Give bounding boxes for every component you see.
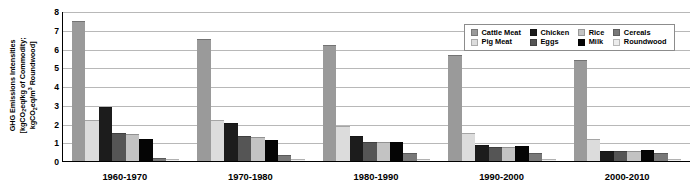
- y-axis-tick-label: 0: [54, 158, 59, 167]
- bar[interactable]: [515, 146, 528, 161]
- y-axis-title-line1: GHG Emissions Intensities: [8, 39, 17, 131]
- legend-item[interactable]: Cattle Meat: [471, 29, 521, 36]
- bar[interactable]: [166, 159, 179, 161]
- legend-swatch-icon: [471, 39, 478, 46]
- y-axis-title: GHG Emissions Intensities [kgCO2eq/kg of…: [0, 0, 46, 170]
- bar[interactable]: [574, 60, 587, 161]
- bar[interactable]: [390, 142, 403, 161]
- y-axis-title-text: GHG Emissions Intensities [kgCO2eq/kg of…: [8, 37, 39, 133]
- legend-label: Roundwood: [624, 38, 667, 45]
- bar[interactable]: [587, 139, 600, 162]
- legend-swatch-icon: [530, 39, 537, 46]
- x-axis-labels: 1960-19701970-19801980-19901990-20002000…: [62, 166, 690, 188]
- bar[interactable]: [475, 145, 488, 161]
- bar-group: [188, 12, 313, 161]
- bar[interactable]: [336, 126, 349, 161]
- bar[interactable]: [323, 45, 336, 161]
- y-axis-tick-label: 6: [54, 45, 59, 54]
- x-axis-category-label: 1970-1980: [188, 166, 314, 188]
- legend-item[interactable]: Cereals: [613, 29, 666, 36]
- legend-swatch-icon: [613, 39, 620, 46]
- bar[interactable]: [627, 151, 640, 161]
- bar[interactable]: [72, 21, 85, 161]
- y-axis-tick-label: 3: [54, 101, 59, 110]
- legend-swatch-icon: [613, 29, 620, 36]
- bar[interactable]: [417, 159, 430, 161]
- y-axis-tick-label: 5: [54, 64, 59, 73]
- ghg-emissions-bar-chart: GHG Emissions Intensities [kgCO2eq/kg of…: [0, 0, 696, 194]
- bar-group: [314, 12, 439, 161]
- y-axis-tick-label: 4: [54, 83, 59, 92]
- bar[interactable]: [153, 158, 166, 161]
- legend-item[interactable]: Roundwood: [613, 38, 666, 45]
- y-axis-tick-label: 7: [54, 26, 59, 35]
- bar[interactable]: [377, 142, 390, 161]
- x-axis-category-label: 1980-1990: [313, 166, 439, 188]
- legend-label: Chicken: [540, 29, 569, 36]
- bar[interactable]: [265, 140, 278, 161]
- bar[interactable]: [403, 153, 416, 161]
- legend-label: Milk: [589, 38, 603, 45]
- legend-item[interactable]: Pig Meat: [471, 38, 521, 45]
- bar[interactable]: [99, 107, 112, 161]
- legend-swatch-icon: [578, 39, 585, 46]
- legend-label: Cattle Meat: [482, 29, 521, 36]
- bar[interactable]: [502, 147, 515, 161]
- bar[interactable]: [251, 137, 264, 161]
- legend-swatch-icon: [578, 29, 585, 36]
- legend-label: Pig Meat: [482, 38, 512, 45]
- bar[interactable]: [278, 155, 291, 161]
- bar[interactable]: [350, 136, 363, 161]
- x-axis-category-label: 1990-2000: [439, 166, 565, 188]
- bar[interactable]: [211, 120, 224, 161]
- bar[interactable]: [238, 136, 251, 161]
- bar[interactable]: [126, 134, 139, 161]
- bar[interactable]: [654, 153, 667, 161]
- x-axis-category-label: 2000-2010: [564, 166, 690, 188]
- legend-label: Eggs: [540, 38, 558, 45]
- bar[interactable]: [462, 133, 475, 161]
- bar[interactable]: [641, 150, 654, 161]
- bar[interactable]: [489, 147, 502, 161]
- bar[interactable]: [197, 39, 210, 161]
- y-axis-ticks: 876543210: [44, 12, 62, 162]
- y-axis-tick-label: 2: [54, 120, 59, 129]
- bar[interactable]: [139, 139, 152, 161]
- legend-label: Cereals: [624, 29, 651, 36]
- legend-label: Rice: [589, 29, 605, 36]
- bar[interactable]: [224, 123, 237, 161]
- bar-group: [63, 12, 188, 161]
- bar[interactable]: [668, 159, 681, 161]
- bar[interactable]: [529, 153, 542, 161]
- legend-item[interactable]: Milk: [578, 38, 604, 45]
- bar[interactable]: [85, 120, 98, 161]
- legend-swatch-icon: [471, 29, 478, 36]
- y-axis-title-line3: kgCO2eq/m3 Roundwood]: [28, 37, 39, 133]
- bar[interactable]: [600, 151, 613, 161]
- bar[interactable]: [614, 151, 627, 161]
- x-axis-category-label: 1960-1970: [62, 166, 188, 188]
- y-axis-title-line2: [kgCO2eq/kg of Commodity;: [17, 37, 28, 133]
- y-axis-tick-label: 1: [54, 139, 59, 148]
- legend-item[interactable]: Rice: [578, 29, 604, 36]
- legend: Cattle MeatPig MeatChickenEggsRiceMilkCe…: [464, 24, 675, 51]
- legend-item[interactable]: Chicken: [530, 29, 569, 36]
- legend-swatch-icon: [530, 29, 537, 36]
- bar[interactable]: [363, 142, 376, 161]
- bar[interactable]: [291, 159, 304, 161]
- legend-item[interactable]: Eggs: [530, 38, 569, 45]
- bar[interactable]: [542, 159, 555, 161]
- bar[interactable]: [448, 55, 461, 161]
- bar[interactable]: [112, 133, 125, 161]
- y-axis-tick-label: 8: [54, 8, 59, 17]
